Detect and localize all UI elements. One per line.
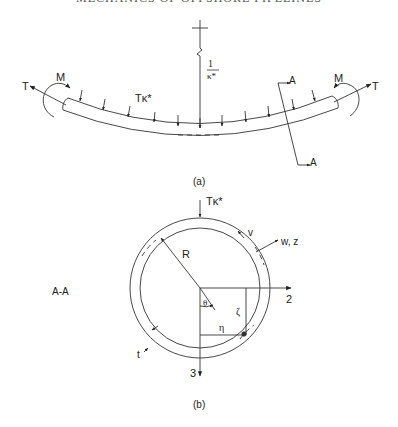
- radius-label: R: [182, 248, 190, 260]
- section-label-top: A: [289, 75, 296, 86]
- w-z-label: w, z: [280, 236, 298, 247]
- moment-label-right: M: [334, 72, 343, 84]
- tension-label-right: T: [372, 80, 379, 92]
- v-label: v: [248, 227, 253, 238]
- section-cut-line: [278, 83, 310, 165]
- curvature-numerator: 1: [208, 58, 213, 69]
- distributed-load-label: Tκ*: [135, 92, 152, 104]
- axis-2-label: 2: [286, 293, 292, 305]
- caption-a: (a): [193, 176, 205, 187]
- figure-a: [30, 20, 371, 165]
- curvature-radius-line: [192, 20, 208, 128]
- thickness-label: t: [137, 349, 140, 360]
- tension-arrow-left: [30, 86, 66, 105]
- curvature-denominator: κ*: [207, 71, 217, 81]
- distributed-load-arrows: [80, 90, 315, 128]
- figure-b: [130, 200, 291, 376]
- load-label: Tκ*: [206, 195, 223, 207]
- caption-b: (b): [193, 399, 205, 410]
- theta-label: θ: [203, 298, 207, 308]
- section-label-bottom: A: [310, 157, 317, 168]
- figure-canvas: T T M M Tκ* 1 κ* A A (a) T: [0, 0, 398, 427]
- section-a-a-label: A-A: [52, 286, 69, 297]
- axis-3-label: 3: [190, 367, 196, 379]
- radius-line: [161, 238, 200, 288]
- eta-label: η: [219, 322, 224, 333]
- moment-arrow-right: [334, 83, 359, 116]
- tension-label-left: T: [22, 80, 29, 92]
- moment-label-left: M: [56, 71, 65, 83]
- zeta-label: ζ: [236, 306, 240, 318]
